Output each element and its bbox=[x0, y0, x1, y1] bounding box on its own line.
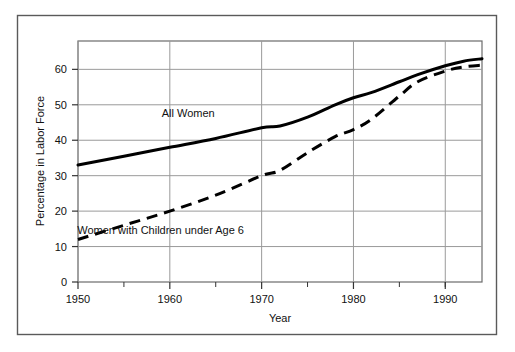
series-label-2: Women with Children under Age 6 bbox=[77, 224, 244, 236]
y-axis-tick-label: 30 bbox=[55, 170, 67, 182]
y-axis-tick-label: 10 bbox=[55, 241, 67, 253]
y-axis-tick-label: 40 bbox=[55, 134, 67, 146]
x-axis-tick-label: 1950 bbox=[66, 293, 90, 305]
line-chart-canvas: 0102030405060 19501960197019801990 All W… bbox=[0, 0, 515, 352]
y-axis-tick-label: 60 bbox=[55, 63, 67, 75]
x-axis-tick-label: 1960 bbox=[158, 293, 182, 305]
y-axis-tick-label: 20 bbox=[55, 205, 67, 217]
y-axis-tick-label: 0 bbox=[61, 276, 67, 288]
y-axis-title: Percentage in Labor Force bbox=[34, 96, 46, 226]
series-label-1: All Women bbox=[162, 107, 215, 119]
x-axis-tick-label: 1980 bbox=[341, 293, 365, 305]
plot-area-border bbox=[78, 41, 482, 282]
chart-figure: 0102030405060 19501960197019801990 All W… bbox=[0, 0, 515, 352]
x-axis-title: Year bbox=[269, 312, 292, 324]
y-axis-tick-label: 50 bbox=[55, 99, 67, 111]
x-axis-tick-label: 1990 bbox=[433, 293, 457, 305]
x-axis-tick-label: 1970 bbox=[249, 293, 273, 305]
